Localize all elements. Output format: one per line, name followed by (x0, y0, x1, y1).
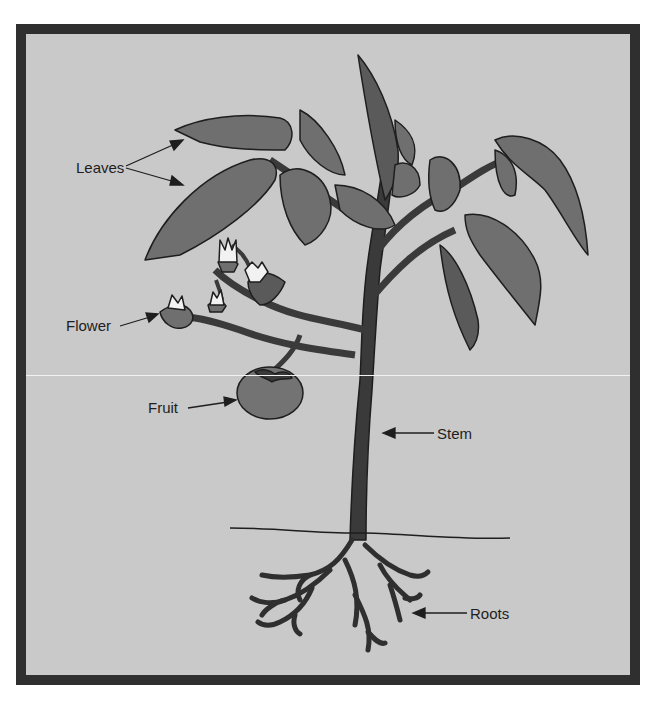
leaf (465, 214, 541, 325)
ground-line (230, 528, 510, 538)
flower-petal (219, 238, 237, 262)
leaf (429, 157, 460, 211)
plant-illustration (0, 0, 655, 704)
leaf (175, 116, 292, 150)
leaf (358, 55, 398, 200)
leaf (392, 163, 420, 197)
leaf (280, 169, 331, 245)
leaf (145, 159, 276, 260)
scan-artifact-line (26, 375, 630, 376)
flower-petal (168, 295, 185, 310)
label-roots: Roots (470, 606, 509, 621)
leaf (440, 245, 478, 350)
label-leaves: Leaves (76, 160, 124, 175)
label-stem: Stem (437, 426, 472, 441)
flower-petal (210, 290, 224, 305)
leaf (300, 110, 345, 175)
label-flower: Flower (66, 318, 111, 333)
label-fruit: Fruit (148, 400, 178, 415)
root (262, 540, 352, 577)
